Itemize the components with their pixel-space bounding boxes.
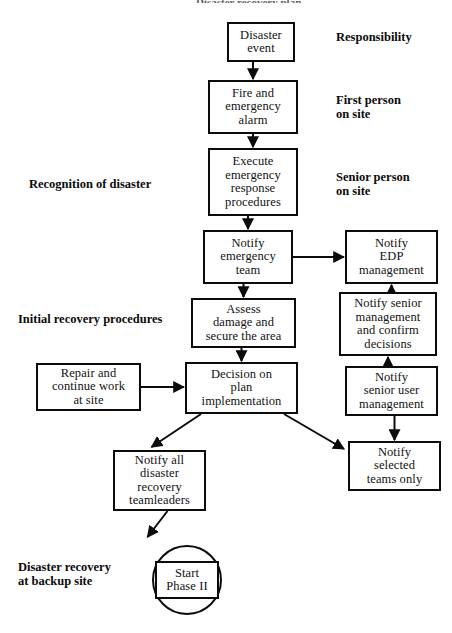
node-notify-selected-teams[interactable]: Notify selected teams only — [348, 441, 441, 491]
edge-e-decision-to-selected — [284, 414, 344, 449]
edge-e-decision-to-teamleads — [152, 414, 202, 447]
node-label: Repair and continue work at site — [40, 367, 137, 408]
node-label: Disaster event — [231, 29, 291, 56]
swimlane-label-disaster-recovery-bkp: Disaster recovery at backup site — [18, 560, 111, 588]
node-label: Notify senior management and confirm dec… — [343, 297, 433, 351]
node-decision-plan[interactable]: Decision on plan implementation — [185, 362, 298, 414]
node-notify-senior-user[interactable]: Notify senior user management — [345, 366, 438, 416]
node-label: Notify selected teams only — [352, 446, 437, 487]
node-assess-damage[interactable]: Assess damage and secure the area — [191, 298, 296, 348]
node-label: Notify EDP management — [349, 237, 434, 278]
node-fire-alarm[interactable]: Fire and emergency alarm — [208, 80, 298, 134]
node-notify-senior-mgmt[interactable]: Notify senior management and confirm dec… — [339, 292, 437, 356]
node-label: Start Phase II — [159, 567, 215, 594]
node-repair-continue[interactable]: Repair and continue work at site — [36, 363, 141, 411]
node-disaster-event[interactable]: Disaster event — [227, 22, 295, 62]
swimlane-label-initial-recovery: Initial recovery procedures — [18, 312, 162, 326]
node-label: Notify senior user management — [349, 371, 434, 412]
node-label: Decision on plan implementation — [189, 368, 294, 409]
node-label: Assess damage and secure the area — [195, 303, 292, 344]
node-execute-procedures[interactable]: Execute emergency response procedures — [208, 148, 298, 216]
node-label: Notify all disaster recovery teamleaders — [117, 454, 202, 508]
swimlane-label-senior-person-on-site: Senior person on site — [336, 170, 410, 198]
swimlane-label-first-person-on-site: First person on site — [336, 93, 401, 121]
swimlane-label-recognition-disaster: Recognition of disaster — [29, 177, 151, 191]
node-label: Notify emergency team — [207, 237, 289, 278]
node-start-phase-ii[interactable]: Start Phase II — [155, 561, 219, 599]
node-label: Execute emergency response procedures — [212, 155, 294, 209]
node-label: Fire and emergency alarm — [212, 87, 294, 128]
node-notify-edp[interactable]: Notify EDP management — [345, 230, 438, 284]
flowchart-canvas: Disaster recovery plan Disaster eventFir… — [0, 0, 452, 633]
node-notify-emergency-team[interactable]: Notify emergency team — [203, 230, 293, 284]
edge-e-teamleads-to-start — [148, 511, 168, 537]
title-fragment: Disaster recovery plan — [196, 0, 316, 3]
swimlane-label-responsibility: Responsibility — [336, 30, 412, 44]
node-notify-teamleaders[interactable]: Notify all disaster recovery teamleaders — [113, 450, 206, 511]
